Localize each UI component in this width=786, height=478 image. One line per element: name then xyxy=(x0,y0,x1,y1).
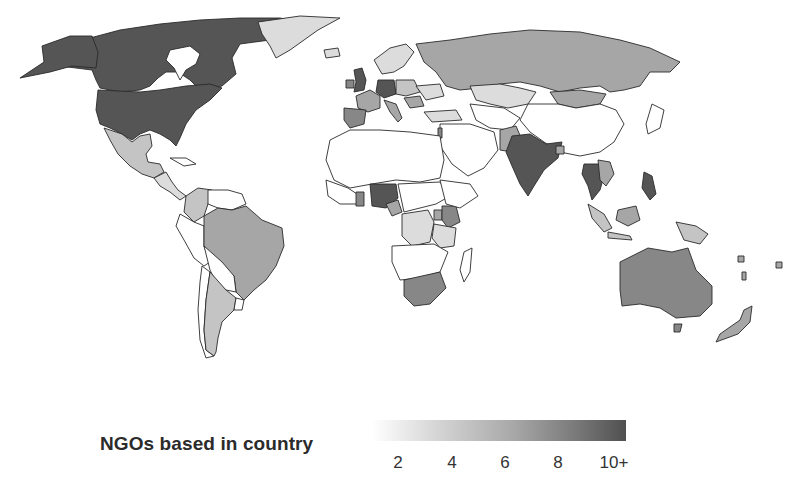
legend-tick: 2 xyxy=(393,453,402,473)
region-uruguay xyxy=(234,298,244,310)
region-alaska xyxy=(20,36,98,78)
region-caribbean xyxy=(170,158,196,166)
legend-tick: 6 xyxy=(500,453,509,473)
region-australia xyxy=(620,248,712,318)
region-central-america xyxy=(154,172,186,200)
region-tasmania xyxy=(674,324,682,332)
region-new-zealand xyxy=(716,306,752,342)
region-ghana xyxy=(356,192,364,206)
region-turkey xyxy=(424,110,462,122)
region-ireland xyxy=(346,80,354,88)
region-spain xyxy=(344,108,366,128)
region-java xyxy=(608,232,632,240)
region-uk xyxy=(354,68,366,92)
legend-ticks: 2 4 6 8 10+ xyxy=(0,453,786,477)
region-kenya xyxy=(442,206,460,228)
region-iceland xyxy=(324,48,340,58)
region-new-guinea xyxy=(676,222,708,244)
region-bangladesh xyxy=(556,146,564,154)
region-japan xyxy=(646,104,664,134)
region-middle-east xyxy=(440,124,498,176)
region-north-africa xyxy=(326,130,444,188)
legend-tick: 10+ xyxy=(600,453,629,473)
world-choropleth-map xyxy=(0,0,786,400)
region-india xyxy=(506,134,562,196)
region-italy xyxy=(384,100,402,122)
region-kazakhstan xyxy=(470,84,536,108)
region-sumatra xyxy=(588,204,612,232)
region-malaysia-borneo xyxy=(616,206,640,226)
region-venezuela-guianas xyxy=(208,190,246,210)
legend-tick: 8 xyxy=(553,453,562,473)
region-france xyxy=(356,90,380,112)
region-pacific-islands xyxy=(738,256,782,280)
region-russia xyxy=(416,30,680,92)
legend-title: NGOs based in country xyxy=(100,433,313,455)
legend-gradient-bar xyxy=(372,420,626,441)
region-madagascar xyxy=(460,248,472,282)
region-horn-of-africa xyxy=(440,180,478,208)
region-drc xyxy=(402,210,434,246)
region-poland-east xyxy=(396,80,420,96)
region-norway-sweden xyxy=(374,44,414,74)
legend-tick: 4 xyxy=(447,453,456,473)
region-romania-balkans xyxy=(404,96,424,108)
region-uganda xyxy=(434,210,442,220)
region-philippines xyxy=(642,172,656,200)
